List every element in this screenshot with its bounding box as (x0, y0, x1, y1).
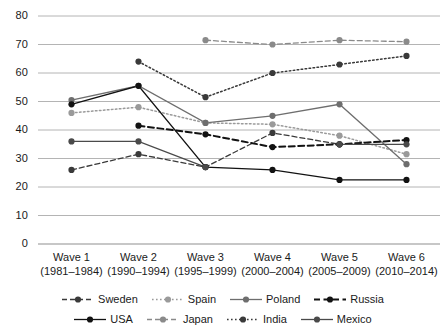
data-point-spain-2 (135, 104, 141, 110)
series-line-usa (72, 86, 407, 180)
legend-label: India (263, 313, 287, 325)
series-line-india (139, 56, 407, 97)
x-tick-label-wave-6: Wave 6(2010–2014) (373, 251, 440, 278)
data-point-mexico-1 (68, 138, 74, 144)
series-markers (68, 37, 409, 183)
data-point-usa-1 (68, 101, 74, 107)
data-point-poland-3 (202, 120, 208, 126)
legend-item-mexico[interactable]: Mexico (301, 313, 372, 325)
y-tick-label: 30 (2, 152, 28, 164)
legend-row: USAJapanIndiaMexico (0, 309, 446, 329)
data-point-usa-6 (403, 177, 409, 183)
plot-area (0, 0, 446, 335)
y-tick-label: 70 (2, 38, 28, 50)
legend-swatch-mexico-icon (301, 314, 333, 325)
wave-name: Wave 5 (306, 251, 373, 265)
x-tick-label-wave-4: Wave 4(2000–2004) (239, 251, 306, 278)
data-point-poland-5 (336, 101, 342, 107)
legend-swatch-usa-icon (74, 314, 106, 325)
y-tick-label: 0 (2, 237, 28, 249)
legend-item-usa[interactable]: USA (74, 313, 133, 325)
wave-years: (1981–1984) (38, 265, 105, 279)
data-point-russia-4 (269, 144, 275, 150)
data-point-japan-6 (403, 39, 409, 45)
legend-swatch-india-icon (227, 314, 259, 325)
data-point-mexico-3 (202, 164, 208, 170)
data-point-mexico-5 (336, 141, 342, 147)
legend-label: Mexico (337, 313, 372, 325)
data-point-sweden-2 (135, 151, 141, 157)
wave-name: Wave 4 (239, 251, 306, 265)
legend-label: Japan (183, 313, 213, 325)
y-tick-label: 40 (2, 123, 28, 135)
legend-label: Poland (266, 293, 300, 305)
data-point-sweden-4 (269, 130, 275, 136)
x-tick-label-wave-3: Wave 3(1995–1999) (172, 251, 239, 278)
data-point-spain-6 (403, 151, 409, 157)
line-chart: 80706050403020100 Wave 1(1981–1984)Wave … (0, 0, 446, 335)
y-tick-label: 50 (2, 95, 28, 107)
legend-swatch-poland-icon (230, 294, 262, 305)
legend-swatch-japan-icon (147, 314, 179, 325)
legend-item-poland[interactable]: Poland (230, 293, 300, 305)
legend-row: SwedenSpainPolandRussia (0, 289, 446, 309)
x-tick-label-wave-1: Wave 1(1981–1984) (38, 251, 105, 278)
legend-item-india[interactable]: India (227, 313, 287, 325)
data-point-mexico-2 (135, 138, 141, 144)
data-point-russia-2 (135, 123, 141, 129)
legend-swatch-spain-icon (152, 294, 184, 305)
legend-label: Sweden (98, 293, 138, 305)
legend-item-spain[interactable]: Spain (152, 293, 216, 305)
y-tick-label: 60 (2, 66, 28, 78)
wave-years: (1995–1999) (172, 265, 239, 279)
data-point-usa-5 (336, 177, 342, 183)
data-point-spain-1 (68, 110, 74, 116)
series-line-japan (206, 40, 407, 44)
data-point-spain-4 (269, 121, 275, 127)
data-point-japan-4 (269, 41, 275, 47)
data-point-usa-4 (269, 167, 275, 173)
data-point-india-6 (403, 53, 409, 59)
legend-item-japan[interactable]: Japan (147, 313, 213, 325)
wave-name: Wave 6 (373, 251, 440, 265)
y-tick-label: 20 (2, 180, 28, 192)
data-point-poland-4 (269, 113, 275, 119)
y-tick-label: 80 (2, 9, 28, 21)
series-line-spain (72, 107, 407, 154)
x-tick-label-wave-2: Wave 2(1990–1994) (105, 251, 172, 278)
wave-name: Wave 1 (38, 251, 105, 265)
y-tick-label: 10 (2, 209, 28, 221)
wave-name: Wave 3 (172, 251, 239, 265)
data-point-india-2 (135, 59, 141, 65)
legend-label: Russia (350, 293, 384, 305)
data-point-mexico-6 (403, 141, 409, 147)
data-point-russia-3 (202, 131, 208, 137)
wave-years: (2005–2009) (306, 265, 373, 279)
gridlines (38, 16, 440, 244)
series-line-poland (72, 86, 407, 164)
data-point-spain-5 (336, 133, 342, 139)
data-point-usa-2 (135, 83, 141, 89)
wave-years: (2010–2014) (373, 265, 440, 279)
data-point-poland-6 (403, 161, 409, 167)
legend-label: Spain (188, 293, 216, 305)
data-point-sweden-1 (68, 167, 74, 173)
legend-swatch-russia-icon (314, 294, 346, 305)
legend-item-sweden[interactable]: Sweden (62, 293, 138, 305)
legend-label: USA (110, 313, 133, 325)
wave-years: (1990–1994) (105, 265, 172, 279)
legend-swatch-sweden-icon (62, 294, 94, 305)
data-point-japan-3 (202, 37, 208, 43)
data-point-india-3 (202, 94, 208, 100)
data-point-japan-5 (336, 37, 342, 43)
x-tick-label-wave-5: Wave 5(2005–2009) (306, 251, 373, 278)
wave-name: Wave 2 (105, 251, 172, 265)
legend-item-russia[interactable]: Russia (314, 293, 384, 305)
wave-years: (2000–2004) (239, 265, 306, 279)
data-point-india-5 (336, 61, 342, 67)
chart-legend: SwedenSpainPolandRussiaUSAJapanIndiaMexi… (0, 289, 446, 329)
data-point-india-4 (269, 70, 275, 76)
